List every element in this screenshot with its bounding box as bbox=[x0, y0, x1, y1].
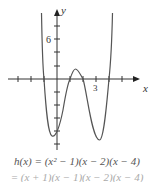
x-axis-arrow-icon bbox=[133, 76, 140, 82]
function-caption: h(x) = (x² − 1)(x − 2)(x − 4) bbox=[0, 155, 154, 167]
y-axis-arrow-icon bbox=[54, 9, 60, 16]
y-tick-label-6: 6 bbox=[46, 34, 51, 45]
x-axis-label: x bbox=[142, 82, 148, 94]
x-tick-label-3: 3 bbox=[93, 83, 98, 93]
function-caption-factored: = (x + 1)(x − 1)(x − 2)(x − 4) bbox=[0, 171, 154, 182]
y-axis-label: y bbox=[60, 4, 66, 16]
function-curve bbox=[42, 13, 113, 140]
